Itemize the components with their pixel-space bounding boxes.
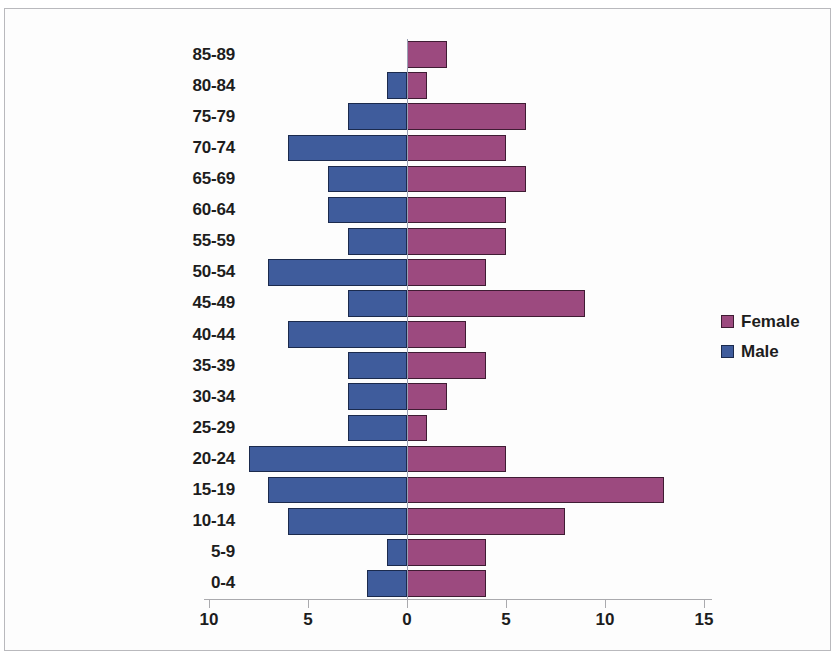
bar-female[interactable] [407,570,486,597]
bar-row [5,383,832,410]
bar-row [5,228,832,255]
bar-female[interactable] [407,259,486,286]
x-axis-line [204,599,712,600]
x-axis-tick [605,599,606,608]
bar-male[interactable] [348,415,407,442]
bar-female[interactable] [407,290,585,317]
bar-male[interactable] [348,290,407,317]
bar-row [5,197,832,224]
chart-legend: FemaleMale [721,306,826,366]
bar-male[interactable] [348,352,407,379]
bar-female[interactable] [407,352,486,379]
bar-female[interactable] [407,508,565,535]
bar-female[interactable] [407,477,664,504]
bars-layer [5,39,832,599]
bar-female[interactable] [407,72,427,99]
legend-label: Female [741,313,800,330]
bar-male[interactable] [268,477,407,504]
x-axis-tick-label: 15 [674,611,734,628]
bar-female[interactable] [407,228,506,255]
bar-row [5,352,832,379]
bar-row [5,135,832,162]
bar-male[interactable] [328,166,407,193]
bar-row [5,539,832,566]
bar-female[interactable] [407,41,447,68]
bar-row [5,41,832,68]
x-axis-tick-label: 5 [476,611,536,628]
bar-female[interactable] [407,166,526,193]
bar-male[interactable] [348,103,407,130]
bar-row [5,570,832,597]
x-axis-tick [209,599,210,608]
x-axis-tick-label: 10 [179,611,239,628]
chart-frame: 0-45-910-1415-1920-2425-2930-3435-3940-4… [4,8,831,651]
bar-row [5,415,832,442]
bar-row [5,477,832,504]
bar-female[interactable] [407,539,486,566]
bar-female[interactable] [407,383,447,410]
bar-female[interactable] [407,197,506,224]
zero-axis-line [407,39,408,599]
bar-male[interactable] [367,570,407,597]
legend-swatch-icon [721,315,734,328]
bar-row [5,166,832,193]
bar-male[interactable] [387,539,407,566]
x-axis-tick [704,599,705,608]
bar-row [5,259,832,286]
bar-female[interactable] [407,103,526,130]
bar-male[interactable] [328,197,407,224]
legend-entry-male[interactable]: Male [721,336,826,366]
legend-swatch-icon [721,345,734,358]
bar-female[interactable] [407,415,427,442]
x-axis-tick [308,599,309,608]
bar-female[interactable] [407,135,506,162]
x-axis-tick-label: 10 [575,611,635,628]
bar-male[interactable] [288,508,407,535]
legend-entry-female[interactable]: Female [721,306,826,336]
bar-row [5,321,832,348]
x-axis-tick-label: 0 [377,611,437,628]
bar-female[interactable] [407,446,506,473]
bar-male[interactable] [348,228,407,255]
bar-row [5,72,832,99]
bar-row [5,446,832,473]
x-axis-tick-label: 5 [278,611,338,628]
bar-male[interactable] [249,446,407,473]
bar-male[interactable] [288,135,407,162]
bar-row [5,103,832,130]
x-axis-tick [506,599,507,608]
bar-female[interactable] [407,321,466,348]
population-pyramid-chart: 0-45-910-1415-1920-2425-2930-3435-3940-4… [5,9,832,652]
bar-row [5,290,832,317]
legend-label: Male [741,343,779,360]
bar-male[interactable] [348,383,407,410]
bar-male[interactable] [288,321,407,348]
bar-row [5,508,832,535]
bar-male[interactable] [268,259,407,286]
x-axis-tick [407,599,408,608]
bar-male[interactable] [387,72,407,99]
